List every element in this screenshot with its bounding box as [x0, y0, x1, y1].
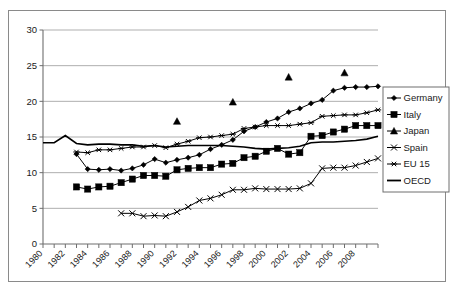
x-tick-label: 1988	[113, 248, 134, 269]
data-point-marker	[375, 122, 381, 128]
data-point-marker	[308, 120, 314, 124]
data-point-marker	[274, 123, 280, 127]
y-axis: 051015202530	[26, 24, 43, 249]
data-point-marker	[391, 111, 397, 117]
data-point-marker	[330, 129, 336, 135]
series-spain	[118, 155, 381, 219]
chart-screenshot: 051015202530 198019821984198619881990199…	[0, 0, 454, 292]
data-point-marker	[341, 126, 347, 132]
y-tick-label: 10	[26, 167, 37, 178]
data-point-marker	[230, 132, 236, 136]
data-point-marker	[107, 148, 113, 152]
x-tick-label: 1990	[135, 248, 156, 269]
x-tick-label: 2008	[336, 248, 357, 269]
data-point-marker	[107, 183, 113, 189]
data-point-marker	[96, 167, 101, 172]
gridlines	[43, 30, 378, 208]
data-point-marker	[197, 152, 202, 157]
data-point-marker	[185, 204, 191, 210]
data-point-marker	[173, 118, 180, 125]
data-point-marker	[163, 160, 168, 165]
data-point-marker	[174, 209, 180, 215]
data-point-marker	[174, 167, 180, 173]
data-point-marker	[342, 85, 347, 90]
data-point-marker	[353, 122, 359, 128]
data-point-marker	[352, 113, 358, 117]
x-tick-label: 1980	[23, 248, 44, 269]
legend-label: Spain	[404, 142, 428, 153]
data-point-marker	[208, 147, 213, 152]
data-point-marker	[286, 151, 292, 157]
data-point-marker	[364, 159, 370, 165]
data-point-marker	[85, 186, 91, 192]
data-point-marker	[285, 73, 292, 80]
x-tick-label: 1992	[157, 248, 178, 269]
data-point-marker	[286, 109, 291, 114]
data-point-marker	[297, 106, 302, 111]
data-point-marker	[174, 157, 179, 162]
data-point-marker	[163, 173, 169, 179]
legend-label: OECD	[404, 175, 432, 186]
x-axis: 1980198219841986198819901992199419961998…	[23, 244, 378, 270]
data-point-marker	[107, 167, 112, 172]
legend-label: EU 15	[404, 158, 430, 169]
series-layer	[43, 69, 381, 219]
data-point-marker	[341, 113, 347, 117]
data-point-marker	[330, 113, 336, 117]
data-point-marker	[185, 165, 191, 171]
data-point-marker	[141, 162, 146, 167]
chart-legend: GermanyItalyJapanSpainEU 15OECD	[383, 87, 449, 192]
data-point-marker	[96, 148, 102, 152]
x-tick-label: 1982	[46, 248, 67, 269]
data-point-marker	[319, 132, 325, 138]
data-point-marker	[196, 165, 202, 171]
x-tick-label: 1994	[180, 248, 201, 269]
data-point-marker	[353, 84, 358, 89]
data-point-marker	[364, 111, 370, 115]
data-point-marker	[186, 155, 191, 160]
data-point-marker	[152, 172, 158, 178]
series-line	[121, 158, 378, 216]
data-point-marker	[130, 166, 135, 171]
x-tick-label: 2000	[247, 248, 268, 269]
y-tick-label: 0	[32, 238, 37, 249]
legend-label: Italy	[404, 109, 422, 120]
data-point-marker	[207, 135, 213, 139]
data-point-marker	[118, 180, 124, 186]
data-point-marker	[341, 69, 348, 76]
series-line	[77, 86, 379, 170]
y-tick-label: 15	[26, 131, 37, 142]
data-point-marker	[118, 146, 124, 150]
data-point-marker	[364, 84, 369, 89]
data-point-marker	[275, 116, 280, 121]
series-italy	[73, 122, 381, 192]
legend-label: Germany	[404, 92, 443, 103]
data-point-marker	[364, 122, 370, 128]
data-point-marker	[241, 155, 247, 161]
line-chart: 051015202530 198019821984198619881990199…	[0, 0, 454, 292]
data-point-marker	[319, 114, 325, 118]
series-germany	[74, 84, 381, 173]
data-point-marker	[230, 160, 236, 166]
x-tick-label: 1998	[224, 248, 245, 269]
x-tick-label: 2002	[269, 248, 290, 269]
y-tick-label: 25	[26, 60, 37, 71]
data-point-marker	[219, 161, 225, 167]
data-point-marker	[152, 157, 157, 162]
x-tick-label: 2004	[291, 248, 312, 269]
data-point-marker	[196, 135, 202, 139]
x-tick-label: 1984	[68, 248, 89, 269]
y-tick-label: 30	[26, 24, 37, 35]
data-point-marker	[96, 184, 102, 190]
data-point-marker	[207, 165, 213, 171]
y-tick-label: 20	[26, 96, 37, 107]
data-point-marker	[185, 139, 191, 143]
legend-label: Japan	[404, 125, 430, 136]
data-point-marker	[219, 192, 225, 198]
x-tick-label: 1996	[202, 248, 223, 269]
data-point-marker	[308, 180, 314, 186]
y-tick-label: 5	[32, 203, 37, 214]
x-tick-label: 2006	[314, 248, 335, 269]
x-tick-label: 1986	[90, 248, 111, 269]
data-point-marker	[375, 108, 381, 112]
